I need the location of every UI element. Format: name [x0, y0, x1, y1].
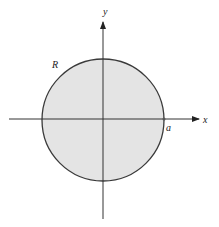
y-axis-label: y — [102, 6, 108, 17]
radius-label: a — [166, 122, 171, 133]
point-a-marker — [163, 118, 166, 121]
x-axis-label: x — [202, 114, 208, 125]
diagram-canvas: y x R a — [0, 0, 219, 227]
region-label: R — [51, 59, 58, 70]
